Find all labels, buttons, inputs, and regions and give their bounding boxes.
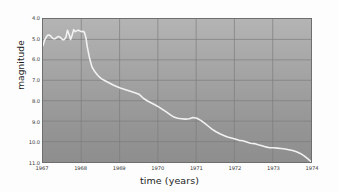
x-axis-title: time (years)	[0, 175, 339, 186]
light-curve	[43, 19, 311, 162]
y-tick-label: 10.0	[4, 139, 40, 145]
y-tick-label: 9.0	[4, 119, 40, 125]
x-tick-label: 1968	[74, 165, 87, 171]
plot-area	[42, 18, 312, 163]
y-axis-title: magnitude	[16, 17, 26, 113]
x-tick-label: 1969	[113, 165, 126, 171]
x-tick-label: 1974	[306, 165, 319, 171]
x-tick-label: 1973	[267, 165, 280, 171]
y-tick-label: 11.0	[4, 160, 40, 166]
x-tick-label: 1970	[151, 165, 164, 171]
figure: 4.05.06.07.08.09.010.011.0 1967196819691…	[0, 0, 339, 192]
x-tick-label: 1967	[36, 165, 49, 171]
x-tick-label: 1971	[190, 165, 203, 171]
x-tick-label: 1972	[228, 165, 241, 171]
